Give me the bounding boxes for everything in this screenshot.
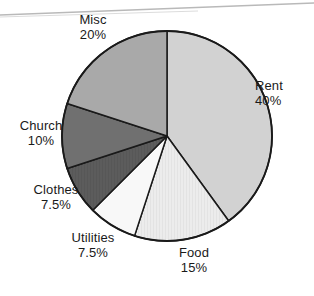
slice-label-church-name: Church [6, 118, 76, 133]
slice-label-food-value: 15% [163, 260, 225, 275]
slice-label-misc-value: 20% [62, 27, 124, 42]
pie-chart: Misc 20% Rent 40% Church 10% Clothes 7.5… [0, 0, 314, 296]
slice-label-clothes-value: 7.5% [20, 197, 92, 212]
slice-label-rent: Rent 40% [255, 78, 309, 108]
slice-label-rent-value: 40% [255, 93, 309, 108]
slice-label-clothes-name: Clothes [20, 182, 92, 197]
slice-label-misc-name: Misc [62, 12, 124, 27]
slice-label-food-name: Food [163, 245, 225, 260]
pie-slices [0, 0, 314, 296]
slice-label-utilities: Utilities 7.5% [56, 230, 130, 260]
slice-label-utilities-value: 7.5% [56, 245, 130, 260]
slice-label-church: Church 10% [6, 118, 76, 148]
slice-label-church-value: 10% [6, 133, 76, 148]
slice-label-food: Food 15% [163, 245, 225, 275]
slice-label-rent-name: Rent [255, 78, 309, 93]
slice-label-utilities-name: Utilities [56, 230, 130, 245]
slice-label-misc: Misc 20% [62, 12, 124, 42]
slice-label-clothes: Clothes 7.5% [20, 182, 92, 212]
